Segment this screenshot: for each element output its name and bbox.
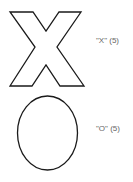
x-label: "X" (5) <box>96 36 119 45</box>
o-label: "O" (5) <box>96 124 120 133</box>
x-shape-icon <box>0 0 90 92</box>
o-shape-icon <box>0 92 90 182</box>
